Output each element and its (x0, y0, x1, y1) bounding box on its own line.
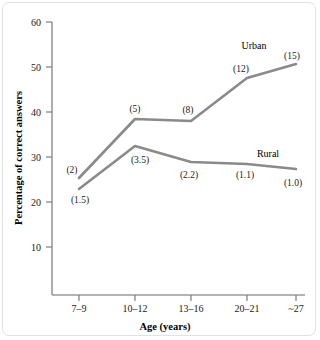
x-tick-label-27: ~27 (288, 303, 303, 314)
rural-point-label-4: (1.0) (284, 178, 302, 189)
series-label-urban: Urban (242, 40, 267, 51)
urban-point-label-3: (12) (233, 64, 249, 75)
x-tick-label-7-9: 7–9 (72, 303, 87, 314)
urban-point-label-2: (8) (182, 105, 193, 116)
x-axis-title: Age (years) (139, 321, 191, 333)
rural-point-label-0: (1.5) (71, 195, 89, 206)
rural-point-label-3: (1.1) (236, 170, 254, 181)
y-tick-label-40: 40 (31, 107, 41, 118)
y-tick-label-60: 60 (31, 17, 41, 28)
line-chart-plot: 60 50 40 30 20 10 7–9 10–12 13–16 20–21 … (0, 0, 320, 340)
x-tick-label-20-21: 20–21 (235, 303, 260, 314)
x-tick-label-10-12: 10–12 (123, 303, 148, 314)
rural-point-label-2: (2.2) (180, 170, 198, 181)
x-tick-label-13-16: 13–16 (179, 303, 204, 314)
y-tick-label-30: 30 (31, 152, 41, 163)
y-tick-label-50: 50 (31, 62, 41, 73)
chart-figure: 60 50 40 30 20 10 7–9 10–12 13–16 20–21 … (0, 0, 320, 340)
y-tick-label-20: 20 (31, 197, 41, 208)
urban-point-label-4: (15) (284, 51, 300, 62)
y-axis-title: Percentage of correct answers (13, 91, 24, 225)
y-tick-label-10: 10 (31, 242, 41, 253)
series-label-rural: Rural (257, 148, 279, 159)
rural-point-label-1: (3.5) (131, 155, 149, 166)
urban-point-label-0: (2) (66, 165, 77, 176)
urban-point-label-1: (5) (129, 104, 140, 115)
